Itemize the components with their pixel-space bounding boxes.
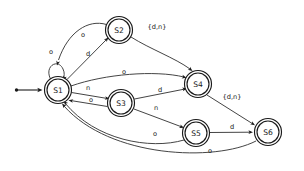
arrowhead-icon	[250, 121, 256, 127]
transition-label: {d,n}	[148, 23, 167, 31]
state-label: S3	[116, 99, 126, 108]
transition-arc	[131, 37, 190, 69]
transition-label: o	[89, 96, 93, 104]
state-label: S6	[263, 128, 273, 137]
fsm-diagram-canvas: ood{d,n}onodn{d,n}doo S1S2S3S4S5S6	[0, 0, 304, 171]
state-node-s2[interactable]: S2	[106, 17, 133, 44]
transition-arc	[64, 106, 256, 153]
transition-arc	[67, 40, 107, 80]
state-node-s1[interactable]: S1	[45, 77, 72, 104]
transition-arc	[59, 23, 107, 60]
transition-s5-to-s6: d	[210, 123, 254, 134]
transition-label: o	[81, 31, 85, 39]
transition-label: d	[158, 86, 162, 94]
transition-s3-to-s5: n	[134, 104, 185, 130]
transition-label: o	[153, 130, 157, 138]
transition-s2-to-s4: {d,n}	[131, 23, 194, 73]
start-marker-layer	[15, 88, 43, 93]
state-node-s4[interactable]: S4	[185, 71, 212, 98]
state-node-s5[interactable]: S5	[183, 120, 210, 147]
state-label: S2	[114, 26, 124, 35]
state-label: S5	[191, 129, 201, 138]
transition-label: {d,n}	[223, 93, 242, 101]
transition-s4-to-s6: {d,n}	[207, 93, 256, 127]
transition-label: o	[122, 68, 126, 76]
transition-s1-to-s2: d	[67, 36, 110, 79]
start-state-marker	[15, 88, 43, 93]
transition-s2-to-s1: o	[55, 23, 106, 66]
transition-label: o	[208, 147, 212, 155]
fsm-svg-root: ood{d,n}onodn{d,n}doo S1S2S3S4S5S6	[0, 0, 304, 171]
transition-s6-to-s1: o	[61, 102, 256, 155]
transition-label: d	[230, 123, 234, 131]
transition-label: n	[154, 104, 158, 112]
state-node-s3[interactable]: S3	[108, 90, 135, 117]
transitions-layer: ood{d,n}onodn{d,n}doo	[49, 23, 256, 155]
transition-label: d	[86, 50, 90, 58]
state-node-s6[interactable]: S6	[255, 119, 282, 146]
state-label: S1	[53, 86, 63, 95]
state-label: S4	[193, 80, 203, 89]
transition-s3-to-s4: d	[135, 86, 188, 99]
transition-label: n	[86, 84, 90, 92]
transition-label: o	[49, 48, 53, 56]
